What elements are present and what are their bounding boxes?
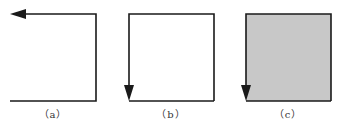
panel-b-label: （b） (156, 106, 185, 121)
arrow-left-icon (10, 9, 26, 19)
panel-a-path (10, 9, 96, 101)
panel-c-path (241, 14, 331, 101)
panel-c-label: （c） (274, 106, 303, 121)
panel-a-label: （a） (39, 106, 68, 121)
arrow-down-icon (124, 85, 134, 101)
filled-region (246, 14, 331, 101)
panel-b-path (124, 14, 214, 101)
